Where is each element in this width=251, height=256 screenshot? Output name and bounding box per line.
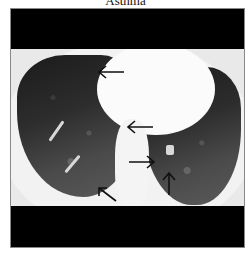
figure-title: Asthma (0, 0, 251, 8)
arrow-left-icon (126, 120, 154, 134)
arrow-up-left-icon (97, 186, 117, 202)
arrow-up-icon (162, 172, 176, 196)
arrow-right-icon (128, 155, 156, 169)
arrow-left-icon (97, 65, 125, 79)
vessel-marking (166, 145, 174, 155)
